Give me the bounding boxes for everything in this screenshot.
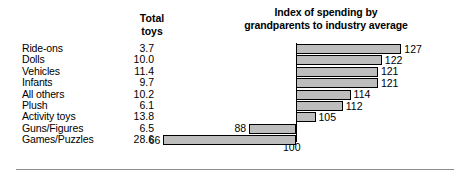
table-row: All others 10.2 bbox=[0, 90, 469, 101]
chart-figure: Index of spending by grandparents to ind… bbox=[0, 0, 469, 179]
table-row: Ride-ons 3.7 bbox=[0, 44, 469, 55]
table-row: Infants 9.7 bbox=[0, 78, 469, 89]
footer-divider bbox=[16, 169, 454, 170]
column-header-total-toys: Total toys bbox=[104, 12, 200, 37]
category-label: Games/Puzzles bbox=[22, 134, 94, 145]
table-row: Vehicles 11.4 bbox=[0, 67, 469, 78]
total-toys-value: 9.7 bbox=[108, 77, 154, 88]
column-header-line-2: toys bbox=[104, 25, 200, 38]
category-rows: Ride-ons 3.7 Dolls 10.0 Vehicles 11.4 In… bbox=[0, 44, 469, 147]
chart-title-line-1: Index of spending by bbox=[215, 6, 437, 19]
chart-title: Index of spending by grandparents to ind… bbox=[215, 6, 437, 31]
column-header-line-1: Total bbox=[104, 12, 200, 25]
chart-title-line-2: grandparents to industry average bbox=[215, 19, 437, 32]
category-label: Infants bbox=[22, 77, 52, 88]
table-row: Games/Puzzles 28.6 bbox=[0, 135, 469, 146]
table-row: Dolls 10.0 bbox=[0, 55, 469, 66]
total-toys-value: 28.6 bbox=[108, 134, 154, 145]
